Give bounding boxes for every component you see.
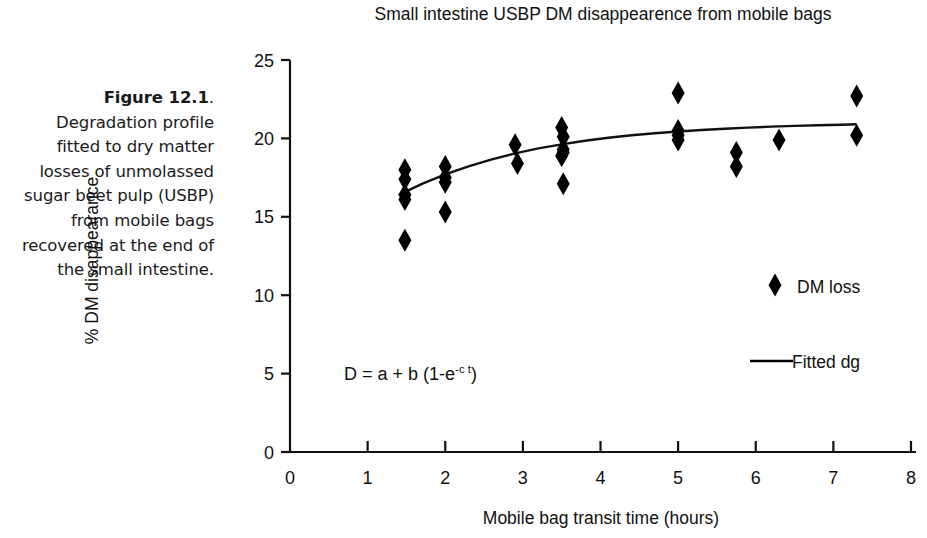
y-tick-label: 25 bbox=[254, 51, 274, 71]
data-point-marker bbox=[730, 155, 743, 178]
y-tick-label: 10 bbox=[254, 286, 274, 306]
data-point-marker bbox=[773, 128, 786, 151]
equation-annotation: D = a + b (1-e-c t) bbox=[344, 364, 477, 385]
legend-label-dm-loss: DM loss bbox=[797, 277, 860, 298]
legend-diamond-icon bbox=[769, 274, 782, 297]
x-tick-label: 1 bbox=[363, 468, 373, 488]
legend-markers bbox=[750, 274, 793, 362]
equation-exponent: -c t bbox=[455, 363, 471, 375]
axis-lines bbox=[284, 60, 916, 452]
x-tick-label: 5 bbox=[673, 468, 683, 488]
equation-prefix: D = a + b (1-e bbox=[344, 364, 455, 384]
data-point-marker bbox=[439, 201, 452, 224]
fitted-curve-path bbox=[399, 124, 857, 195]
x-axis-ticks: 012345678 bbox=[285, 441, 916, 488]
y-axis-ticks: 0510152025 bbox=[254, 51, 290, 463]
x-tick-label: 0 bbox=[285, 468, 295, 488]
y-tick-label: 20 bbox=[254, 129, 274, 149]
data-point-marker bbox=[557, 172, 570, 195]
x-tick-label: 4 bbox=[595, 468, 605, 488]
plot-canvas: 0510152025 012345678 bbox=[0, 0, 927, 538]
data-point-marker bbox=[850, 124, 863, 147]
y-tick-label: 5 bbox=[264, 364, 274, 384]
chart-figure: Small intestine USBP DM disappearence fr… bbox=[0, 0, 927, 538]
data-point-marker bbox=[672, 81, 685, 104]
y-tick-label: 0 bbox=[264, 443, 274, 463]
x-axis-title: Mobile bag transit time (hours) bbox=[290, 508, 912, 529]
x-tick-label: 3 bbox=[518, 468, 528, 488]
x-tick-label: 2 bbox=[440, 468, 450, 488]
fitted-curve bbox=[399, 124, 857, 195]
x-tick-label: 6 bbox=[751, 468, 761, 488]
equation-suffix: ) bbox=[471, 364, 477, 384]
data-point-marker bbox=[850, 85, 863, 108]
x-tick-label: 7 bbox=[828, 468, 838, 488]
data-point-marker bbox=[398, 229, 411, 252]
y-tick-label: 15 bbox=[254, 207, 274, 227]
y-axis-title: % DM disappearance bbox=[82, 96, 103, 426]
legend-label-fitted-dg: Fitted dg bbox=[792, 352, 860, 373]
data-point-marker bbox=[511, 152, 524, 175]
x-tick-label: 8 bbox=[906, 468, 916, 488]
